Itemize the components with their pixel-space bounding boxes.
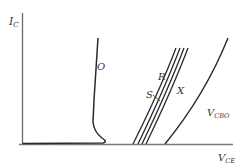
- curve-o-label: O: [97, 61, 105, 72]
- curve-vcbo: [165, 38, 228, 144]
- curve-x-label: X: [176, 85, 185, 96]
- curve-r: [138, 48, 180, 144]
- y-axis-label: IC: [8, 15, 19, 29]
- curve-o: [23, 38, 106, 144]
- curve-s-label: S: [146, 89, 153, 100]
- x-axis-label: VCE: [218, 152, 235, 165]
- curve-vcbo-label: VCBO: [207, 107, 230, 120]
- curve-r-label: R: [157, 71, 166, 82]
- characteristics-diagram: IC VCE O R S X VCBO: [0, 0, 246, 166]
